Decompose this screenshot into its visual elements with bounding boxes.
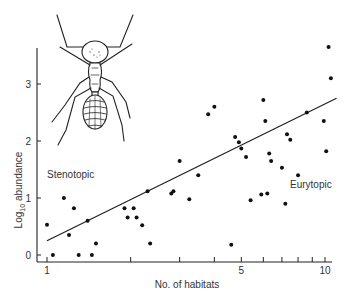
data-point [90,253,94,257]
x-tick-label: 1 [44,265,50,276]
data-point [146,189,150,193]
data-point [178,159,182,163]
data-point [206,112,210,116]
data-point [329,76,333,80]
data-point [135,215,139,219]
data-point [126,215,130,219]
data-point [140,223,144,227]
axes [37,48,332,262]
data-point [283,202,287,206]
y-axis-label: Log10 abundance [13,151,26,228]
y-tick-label: 2 [25,136,31,147]
x-axis-label: No. of habitats [155,279,219,290]
scatter-chart: 0123 1510 Log10 abundance No. of habitat… [0,0,356,298]
data-point [233,135,237,139]
data-point [237,140,241,144]
data-point [259,193,263,197]
y-tick-label: 3 [25,79,31,90]
data-point [229,243,233,247]
annotation-eurytopic: Eurytopic [290,179,332,190]
data-point [249,198,253,202]
data-point [322,119,326,123]
data-point [263,119,267,123]
data-point [72,206,76,210]
data-point [269,159,273,163]
data-point [267,152,271,156]
data-point [62,196,66,200]
data-point [77,253,81,257]
annotation-stenotopic: Stenotopic [47,169,94,180]
data-point [327,45,331,49]
data-point [196,173,200,177]
x-axis-ticks: 1510 [44,257,331,276]
data-point [132,206,136,210]
data-point [171,189,175,193]
data-point [148,242,152,246]
y-tick-label: 1 [25,193,31,204]
data-point [305,111,309,115]
data-point [67,233,71,237]
data-point [265,191,269,195]
data-point [187,197,191,201]
data-point [285,132,289,136]
ant-illustration-icon [52,15,133,145]
data-point [51,253,55,257]
data-point [94,242,98,246]
data-point [324,149,328,153]
data-point [296,173,300,177]
data-points [45,45,333,257]
data-point [122,206,126,210]
data-point [86,219,90,223]
data-point [212,105,216,109]
y-axis-ticks: 0123 [25,79,41,261]
data-point [288,138,292,142]
x-tick-label: 10 [319,265,331,276]
data-point [261,98,265,102]
data-point [45,223,49,227]
data-point [244,155,248,159]
data-point [280,166,284,170]
y-tick-label: 0 [25,250,31,261]
x-tick-label: 5 [239,265,245,276]
data-point [239,146,243,150]
